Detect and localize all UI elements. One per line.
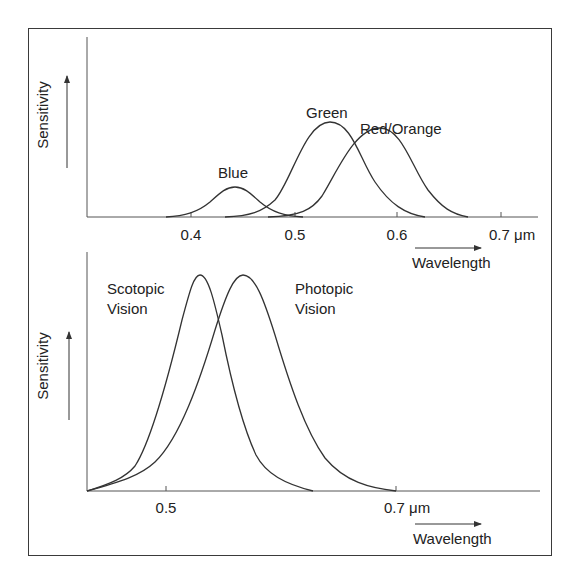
figure-svg: 0.4 0.5 0.6 0.7 μm Sensitivity Wavelengt… [0, 0, 574, 587]
top-x-label: Wavelength [412, 254, 491, 271]
top-tick-label-0.7: 0.7 μm [489, 226, 535, 243]
bottom-chart: 0.5 0.7 μm Sensitivity Wavelength Scotop… [34, 252, 540, 547]
bottom-y-label: Sensitivity [34, 332, 51, 400]
bottom-tick-label-0.7: 0.7 μm [384, 499, 430, 516]
label-blue: Blue [218, 164, 248, 181]
top-chart: 0.4 0.5 0.6 0.7 μm Sensitivity Wavelengt… [34, 37, 538, 271]
label-photopic-line2: Vision [295, 300, 336, 317]
top-tick-label-0.4: 0.4 [181, 226, 202, 243]
curve-blue [166, 187, 303, 217]
label-photopic-line1: Photopic [295, 280, 354, 297]
label-red-orange: Red/Orange [360, 120, 442, 137]
top-tick-label-0.6: 0.6 [387, 226, 408, 243]
top-tick-label-0.5: 0.5 [285, 226, 306, 243]
bottom-tick-label-0.5: 0.5 [156, 499, 177, 516]
curve-red-orange [268, 128, 468, 217]
label-scotopic-line1: Scotopic [107, 280, 165, 297]
label-green: Green [306, 104, 348, 121]
bottom-x-label: Wavelength [413, 530, 492, 547]
label-scotopic-line2: Vision [107, 300, 148, 317]
top-y-label: Sensitivity [34, 81, 51, 149]
